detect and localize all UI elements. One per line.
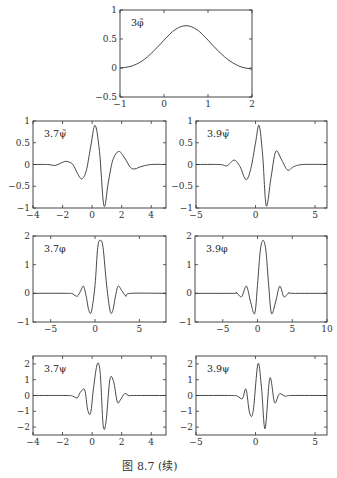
x-tick-label: −2 [56,437,69,447]
y-tick-label: −2 [180,422,193,432]
y-tick-label: −1 [180,203,193,213]
y-tick-label: 1 [186,260,192,270]
y-tick-label: −0.5 [95,92,117,102]
x-tick-label: 0 [89,210,95,220]
x-tick-label: 5 [312,210,318,220]
subplot-p5: −50510−10123.9φ [179,231,333,334]
y-tick-label: 1 [24,375,30,385]
y-tick-label: −1 [180,406,193,416]
subplot-p3: −505−1−0.500.513.9ψ̃ [171,116,327,220]
x-tick-label: 10 [321,324,333,334]
y-tick-label: −0.5 [8,181,30,191]
subplot-p2: −4−2024−1−0.500.513.7ψ̃ [8,116,166,220]
y-tick-label: 0 [24,391,30,401]
x-tick-label: 0 [253,437,259,447]
plot-label: 3.7φ [44,243,66,254]
x-tick-label: 1 [205,99,211,109]
x-tick-label: 4 [148,210,154,220]
x-tick-label: −2 [56,210,69,220]
x-tick-label: 2 [119,210,125,220]
y-tick-label: 0 [186,288,192,298]
plot-label: 3.7ψ̃ [44,128,67,139]
x-tick-label: 0 [89,437,95,447]
data-curve [120,26,252,70]
subplot-p7: −505−2−10123.9ψ [180,356,327,447]
y-tick-label: 0 [111,63,117,73]
figure-caption: 图 8.7 (续) [0,457,300,473]
y-tick-label: 0 [187,391,193,401]
y-tick-label: 0 [187,160,193,170]
plot-label: 3φ̃ [131,17,144,28]
y-tick-label: 2 [24,231,30,241]
y-tick-label: 1 [24,116,30,126]
x-tick-label: −5 [216,324,230,334]
y-tick-label: −1 [17,203,30,213]
plot-label: 3.9ψ [207,363,230,374]
y-tick-label: 2 [186,231,192,241]
x-tick-label: 5 [137,324,143,334]
y-tick-label: 2 [187,359,193,369]
y-tick-label: 0 [24,288,30,298]
x-tick-label: 2 [249,99,255,109]
y-tick-label: 0.5 [103,34,118,44]
y-tick-label: −1 [17,317,30,327]
y-tick-label: 1 [111,5,117,15]
y-tick-label: 1 [187,116,193,126]
subplot-p6: −4−2024−2−10123.7ψ [17,356,166,447]
x-tick-label: 5 [312,437,318,447]
y-tick-label: 0 [24,160,30,170]
y-tick-label: −2 [17,422,30,432]
y-tick-label: 1 [24,260,30,270]
x-tick-label: 0 [255,324,261,334]
plot-label: 3.9ψ̃ [207,128,230,139]
y-tick-label: 1 [187,375,193,385]
x-tick-label: −5 [44,324,58,334]
x-tick-label: 0 [92,324,98,334]
x-tick-label: 4 [148,437,154,447]
subplot-p4: −505−10123.7φ [17,231,166,334]
x-tick-label: 0 [253,210,259,220]
plot-label: 3.9φ [206,243,228,254]
subplot-p1: −1012−0.500.513φ̃ [95,5,255,109]
y-tick-label: 0.5 [16,138,31,148]
plot-label: 3.7ψ [44,363,67,374]
x-tick-label: 5 [289,324,295,334]
y-tick-label: −1 [179,317,192,327]
y-tick-label: −0.5 [171,181,193,191]
x-tick-label: −5 [189,437,203,447]
figure-canvas: −1012−0.500.513φ̃−4−2024−1−0.500.513.7ψ̃… [0,0,337,478]
x-tick-label: 0 [161,99,167,109]
y-tick-label: 2 [24,359,30,369]
x-tick-label: 2 [119,437,125,447]
y-tick-label: 0.5 [179,138,194,148]
y-tick-label: −1 [17,406,30,416]
x-tick-label: −4 [26,437,40,447]
